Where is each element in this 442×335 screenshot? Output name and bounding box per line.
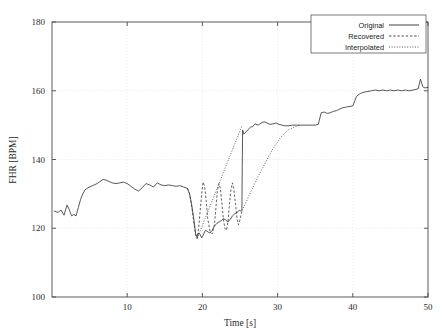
y-tick-label: 120	[32, 223, 46, 233]
chart-legend: OriginalRecoveredInterpolated	[311, 15, 426, 53]
x-tick-label: 10	[123, 302, 133, 312]
chart-canvas: 1020304050 100120140160180 Time [s] FHR …	[0, 0, 442, 335]
y-tick-label: 140	[32, 155, 46, 165]
x-tick-label: 20	[198, 302, 208, 312]
y-tick-label: 160	[32, 86, 46, 96]
chart-figure: 1020304050 100120140160180 Time [s] FHR …	[0, 0, 442, 335]
legend-label-interpolated: Interpolated	[345, 43, 384, 52]
x-tick-label: 50	[424, 302, 434, 312]
y-tick-label: 100	[32, 292, 46, 302]
x-axis-label: Time [s]	[224, 318, 256, 328]
legend-label-recovered: Recovered	[348, 32, 384, 41]
x-tick-label: 40	[348, 302, 358, 312]
x-tick-label: 30	[273, 302, 283, 312]
legend-label-original: Original	[359, 21, 385, 30]
y-axis-label: FHR [BPM]	[8, 136, 18, 183]
y-tick-label: 180	[32, 17, 46, 27]
